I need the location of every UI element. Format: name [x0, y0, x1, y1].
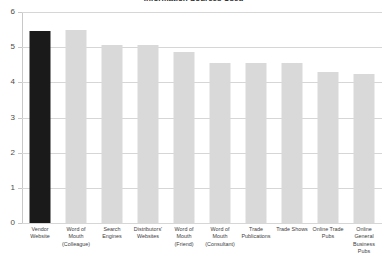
x-axis-category-label: Word ofMouth(Consultant): [202, 226, 238, 248]
bar-slot: [346, 12, 382, 223]
bar-slot: [202, 12, 238, 223]
chart-title: Information Sources Used: [0, 0, 387, 3]
y-axis-tick-label: 6: [0, 8, 15, 16]
bar-slot: [310, 12, 346, 223]
bar[interactable]: [102, 45, 123, 223]
x-axis-category-label: Trade Shows: [274, 226, 310, 233]
bar-slot: [22, 12, 58, 223]
bar[interactable]: [210, 63, 231, 223]
x-axis-category-label: Word ofMouth(Friend): [166, 226, 202, 248]
y-axis-tick-label: 3: [0, 114, 15, 122]
y-axis-tick-label: 5: [0, 43, 15, 51]
plot-area: [22, 12, 382, 223]
bar[interactable]: [318, 72, 339, 223]
bar[interactable]: [66, 30, 87, 223]
x-axis-category-label: Word ofMouth(Colleague): [58, 226, 94, 248]
bar-chart: Information Sources Used 0123456 VendorW…: [0, 0, 387, 268]
bar-slot: [238, 12, 274, 223]
x-axis-category-label: TradePublications: [238, 226, 274, 241]
bar-slot: [58, 12, 94, 223]
x-axis-category-label: Distributors'Websites: [130, 226, 166, 241]
bar-slot: [94, 12, 130, 223]
y-axis-tick-label: 4: [0, 78, 15, 86]
bar-slot: [274, 12, 310, 223]
y-axis-tick-label: 0: [0, 219, 15, 227]
bar-slot: [166, 12, 202, 223]
bar[interactable]: [138, 45, 159, 223]
gridline: [22, 223, 382, 224]
x-axis-category-label: OnlineGeneralBusinessPubs: [346, 226, 382, 256]
bar-slot: [130, 12, 166, 223]
bar[interactable]: [354, 74, 375, 223]
bar[interactable]: [246, 63, 267, 223]
x-axis-category-labels: VendorWebsiteWord ofMouth(Colleague)Sear…: [22, 226, 382, 268]
bar[interactable]: [282, 63, 303, 223]
bar[interactable]: [174, 52, 195, 223]
y-axis-tick-label: 1: [0, 184, 15, 192]
x-axis-category-label: VendorWebsite: [22, 226, 58, 241]
x-axis-category-label: Online TradePubs: [310, 226, 346, 241]
x-axis-category-label: SearchEngines: [94, 226, 130, 241]
y-axis-tick-label: 2: [0, 149, 15, 157]
bar[interactable]: [30, 31, 51, 223]
